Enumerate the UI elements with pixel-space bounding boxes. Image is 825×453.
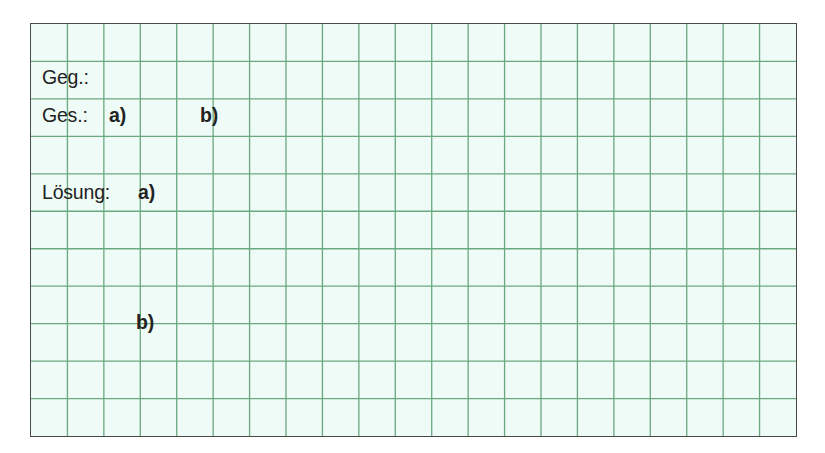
sought-part-a-label: a) — [109, 106, 126, 126]
sought-part-b-label: b) — [200, 106, 218, 126]
solution-label: Lösung: — [42, 183, 110, 203]
grid-paper-worksheet: Geg.: Ges.: a) b) Lösung: a) b) — [30, 23, 797, 437]
solution-part-b-label: b) — [136, 313, 154, 333]
given-label: Geg.: — [42, 68, 89, 88]
grid-lines — [31, 24, 796, 436]
sought-label: Ges.: — [42, 106, 88, 126]
solution-part-a-label: a) — [138, 183, 155, 203]
